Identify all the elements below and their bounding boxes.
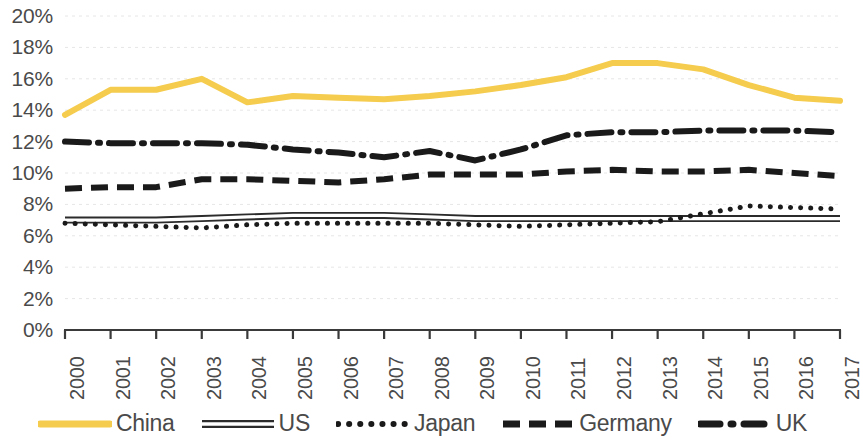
y-axis-tick-label: 20% bbox=[0, 5, 53, 26]
china-line-swatch bbox=[38, 415, 112, 433]
x-axis-tick-text: 2001 bbox=[113, 356, 133, 400]
x-axis-tick-text: 2002 bbox=[158, 356, 178, 400]
y-axis-tick-label: 0% bbox=[0, 319, 53, 340]
uk-line-swatch bbox=[698, 415, 772, 433]
series-us bbox=[65, 215, 840, 220]
y-axis-tick-label: 2% bbox=[0, 288, 53, 309]
x-axis-tick-text: 2000 bbox=[67, 356, 87, 400]
x-axis-tick-text: 2007 bbox=[386, 356, 406, 400]
x-axis-tick-text: 2009 bbox=[477, 356, 497, 400]
germany-line-swatch bbox=[501, 415, 575, 433]
legend-item-japan[interactable]: Japan bbox=[336, 412, 475, 435]
series-uk bbox=[65, 131, 840, 161]
x-axis-tick-text: 2005 bbox=[295, 356, 315, 400]
y-axis-tick-label: 8% bbox=[0, 193, 53, 214]
legend-item-label: Japan bbox=[414, 412, 475, 435]
series-line bbox=[65, 131, 840, 161]
y-axis-tick-label: 16% bbox=[0, 68, 53, 89]
plot-area bbox=[0, 0, 845, 340]
y-axis-tick-label: 4% bbox=[0, 256, 53, 277]
y-axis-tick-label: 6% bbox=[0, 225, 53, 246]
legend-item-label: UK bbox=[776, 412, 807, 435]
x-axis-tick-text: 2010 bbox=[523, 356, 543, 400]
series-group bbox=[65, 63, 840, 228]
x-axis-tick-text: 2003 bbox=[204, 356, 224, 400]
y-axis-tick-label: 10% bbox=[0, 162, 53, 183]
x-axis-tick-text: 2011 bbox=[568, 358, 588, 400]
y-axis-tick-label: 14% bbox=[0, 99, 53, 120]
x-axis-tick-text: 2017 bbox=[842, 356, 862, 400]
x-axis-tick-text: 2012 bbox=[614, 356, 634, 400]
legend-item-uk[interactable]: UK bbox=[698, 412, 807, 435]
legend-item-china[interactable]: China bbox=[38, 412, 175, 435]
us-line-swatch bbox=[201, 415, 275, 433]
legend-item-label: US bbox=[279, 412, 310, 435]
chart-canvas bbox=[0, 0, 845, 340]
legend-item-label: China bbox=[116, 412, 175, 435]
japan-line-swatch bbox=[336, 415, 410, 433]
x-axis-tick-text: 2014 bbox=[705, 356, 725, 400]
legend-item-germany[interactable]: Germany bbox=[501, 412, 671, 435]
x-axis-tick-text: 2013 bbox=[660, 356, 680, 400]
y-axis-tick-label: 12% bbox=[0, 131, 53, 152]
x-axis-tick-text: 2016 bbox=[796, 356, 816, 400]
y-axis-tick-label: 18% bbox=[0, 36, 53, 57]
chart-legend: ChinaUSJapanGermanyUK bbox=[0, 404, 845, 443]
x-axis-tick-text: 2008 bbox=[432, 356, 452, 400]
x-axis-tick-text: 2006 bbox=[341, 356, 361, 400]
x-axis-tick-text: 2004 bbox=[249, 356, 269, 400]
x-axis bbox=[64, 330, 841, 339]
x-axis-tick-text: 2015 bbox=[751, 356, 771, 400]
legend-item-us[interactable]: US bbox=[201, 412, 310, 435]
series-china bbox=[65, 63, 840, 115]
series-line bbox=[65, 63, 840, 115]
legend-item-label: Germany bbox=[579, 412, 671, 435]
